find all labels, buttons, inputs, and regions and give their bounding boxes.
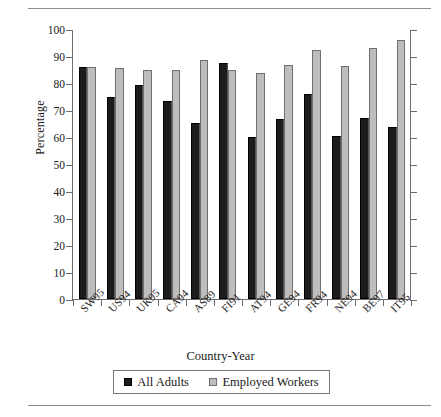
- x-axis-title: Country-Year: [0, 349, 441, 364]
- bar-group: [73, 30, 101, 299]
- bar-uk95-all-adults: [135, 85, 143, 299]
- bar-as89-all-adults: [191, 123, 199, 299]
- y-axis-tick: [66, 165, 73, 166]
- legend-label-all-adults: All Adults: [137, 375, 189, 390]
- bar-fr94-employed-workers: [312, 50, 320, 299]
- bars-container: [73, 30, 410, 299]
- bar-be97-employed-workers: [369, 48, 377, 299]
- bar-us94-all-adults: [107, 97, 115, 299]
- y-axis-tick-label: 80: [29, 79, 65, 91]
- bar-ne94-employed-workers: [341, 66, 349, 299]
- bar-group: [270, 30, 298, 299]
- y-axis-tick-label: 0: [29, 295, 65, 307]
- y-axis-tick: [66, 84, 73, 85]
- y-axis-tick-label: 70: [29, 106, 65, 118]
- y-axis-tick: [66, 192, 73, 193]
- y-axis-tick-right: [410, 57, 417, 58]
- y-axis-tick-right: [410, 84, 417, 85]
- bar-as89-employed-workers: [200, 60, 208, 299]
- y-axis-tick-label: 100: [29, 25, 65, 37]
- chart-legend: All Adults Employed Workers: [113, 370, 330, 394]
- plot-area: 0102030405060708090100: [72, 30, 410, 300]
- legend-swatch-dark-icon: [124, 378, 132, 386]
- bar-sw95-all-adults: [79, 67, 87, 299]
- y-axis-tick-right: [410, 111, 417, 112]
- y-axis-tick: [66, 111, 73, 112]
- y-axis-tick: [66, 246, 73, 247]
- bar-fr94-all-adults: [304, 94, 312, 299]
- y-axis-tick: [66, 57, 73, 58]
- bar-uk95-employed-workers: [143, 70, 151, 299]
- bar-group: [129, 30, 157, 299]
- y-axis-tick: [66, 219, 73, 220]
- bar-it95-all-adults: [388, 127, 396, 299]
- y-axis-tick-label: 60: [29, 133, 65, 145]
- bar-be97-all-adults: [360, 118, 368, 299]
- legend-swatch-light-icon: [209, 378, 217, 386]
- bar-us94-employed-workers: [115, 68, 123, 299]
- bar-fi91-employed-workers: [228, 70, 236, 300]
- y-axis-tick-right: [410, 273, 417, 274]
- y-axis-tick-label: 30: [29, 214, 65, 226]
- bar-ca94-all-adults: [163, 101, 171, 299]
- bar-group: [327, 30, 355, 299]
- y-axis-tick-right: [410, 300, 417, 301]
- bar-chart-figure: Percentage 0102030405060708090100 SW95US…: [0, 0, 441, 417]
- y-axis-tick-label: 10: [29, 268, 65, 280]
- bar-ca94-employed-workers: [172, 70, 180, 299]
- bar-ge94-all-adults: [276, 119, 284, 299]
- bar-group: [298, 30, 326, 299]
- y-axis-tick-right: [410, 30, 417, 31]
- bar-sw95-employed-workers: [87, 67, 95, 299]
- legend-label-employed-workers: Employed Workers: [222, 375, 318, 390]
- bar-at94-all-adults: [248, 137, 256, 299]
- bar-group: [101, 30, 129, 299]
- y-axis-tick-right: [410, 219, 417, 220]
- y-axis-tick: [66, 300, 73, 301]
- bar-group: [158, 30, 186, 299]
- bar-group: [242, 30, 270, 299]
- y-axis-tick-right: [410, 246, 417, 247]
- bar-group: [186, 30, 214, 299]
- bar-fi91-all-adults: [219, 63, 227, 299]
- bar-group: [214, 30, 242, 299]
- legend-item-all-adults: All Adults: [124, 375, 189, 390]
- y-axis-tick-label: 20: [29, 241, 65, 253]
- bar-ge94-employed-workers: [284, 65, 292, 299]
- legend-item-employed-workers: Employed Workers: [209, 375, 318, 390]
- bar-group: [383, 30, 411, 299]
- y-axis-tick: [66, 273, 73, 274]
- x-axis-tick-labels: SW95US94UK95CA94AS89FI91AT94GE94FR94NE94…: [72, 302, 410, 348]
- bar-ne94-all-adults: [332, 136, 340, 299]
- bar-it95-employed-workers: [397, 40, 405, 299]
- y-axis-tick-label: 90: [29, 52, 65, 64]
- y-axis-tick-label: 40: [29, 187, 65, 199]
- y-axis-tick-right: [410, 138, 417, 139]
- y-axis-tick-right: [410, 192, 417, 193]
- y-axis-tick-label: 50: [29, 160, 65, 172]
- bar-group: [355, 30, 383, 299]
- y-axis-tick-right: [410, 165, 417, 166]
- y-axis-tick: [66, 30, 73, 31]
- y-axis-tick: [66, 138, 73, 139]
- bar-at94-employed-workers: [256, 73, 264, 299]
